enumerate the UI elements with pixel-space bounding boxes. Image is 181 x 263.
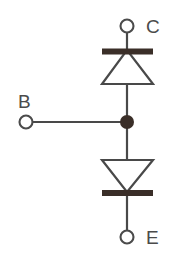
collector-terminal-circle[interactable] [121,20,134,33]
base-terminal-label: B [18,91,31,112]
collector-terminal-label: C [146,16,160,37]
schematic-diagram: C B E [0,0,181,263]
upper-diode-cathode-bar [102,49,153,55]
base-terminal-circle[interactable] [20,116,33,129]
lower-diode-cathode-bar [102,190,153,196]
diagram-background [0,0,181,263]
transistor-symbol-canvas: C B E [0,0,181,263]
emitter-terminal-label: E [146,227,159,248]
emitter-terminal-circle[interactable] [121,231,134,244]
base-junction-dot [120,115,134,129]
